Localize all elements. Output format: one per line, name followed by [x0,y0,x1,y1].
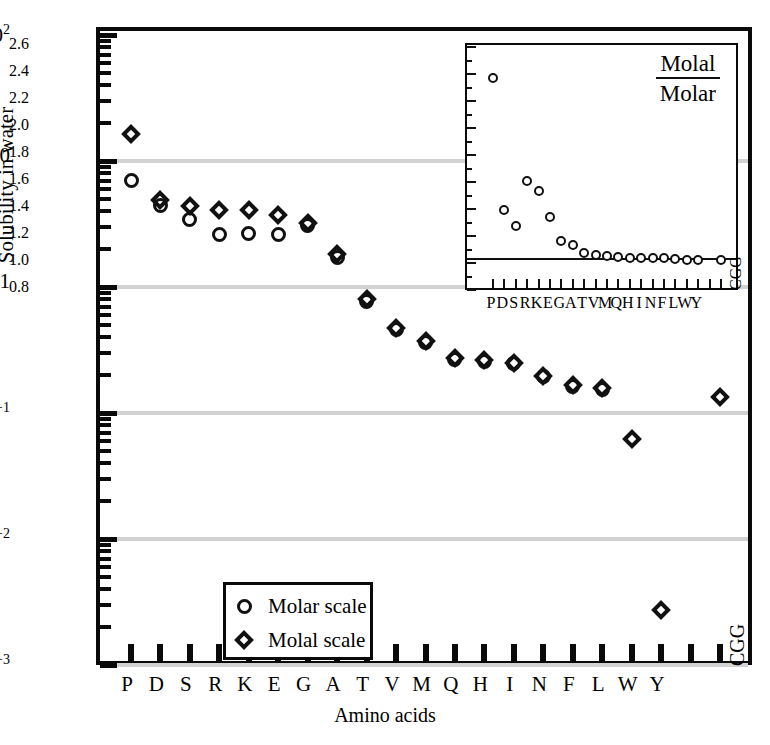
y-tick-minor [100,171,111,175]
x-tick-major [511,644,517,661]
circle-marker-icon [236,598,252,614]
data-point-diamond [592,378,612,398]
data-point-diamond [445,348,465,368]
inset-x-tick [606,279,608,288]
ratio-numerator: Molal [656,51,720,79]
inset-data-point [534,186,544,196]
x-tick-major [393,644,399,661]
y-tick-minor [100,417,111,421]
inset-y-tick-label: 1.4 [9,198,29,214]
x-tick-major [599,644,605,661]
y-tick-minor [100,305,111,309]
x-tick-label: Y [640,672,674,697]
data-point-diamond [533,366,553,386]
inset-x-tick [560,279,562,288]
data-point-circle [124,173,139,188]
y-tick-minor [100,543,111,547]
y-tick-minor [100,565,111,569]
y-tick-major [100,537,117,542]
y-tick-major [100,159,117,164]
inset-x-tick [503,279,505,288]
gridline [100,411,748,415]
inset-data-point [568,240,578,250]
y-tick-minor [100,297,111,301]
inset-x-tick [629,279,631,288]
inset-y-tick-label: 1.6 [9,171,29,187]
x-tick-label-cgg: CGG [726,624,749,666]
y-tick-minor [100,313,111,317]
y-tick-minor [100,449,111,453]
y-tick-minor [100,121,111,125]
data-point-diamond [504,353,524,373]
inset-x-tick [549,279,551,288]
y-tick-major [100,285,117,290]
x-tick-major [216,644,222,661]
x-tick-major [717,644,723,661]
inset-data-point [716,255,726,265]
inset-y-tick [467,235,476,237]
y-tick-minor [100,549,111,553]
y-tick-minor [100,335,111,339]
inset-x-tick-label-cgg: CGG [727,256,745,290]
inset-x-tick [709,279,711,288]
x-tick-major [481,644,487,661]
inset-y-tick [467,154,476,156]
inset-y-tick-label: 1.0 [9,252,29,268]
x-tick-major [452,644,458,661]
y-tick-minor [100,603,111,607]
inset-y-tick-label: 1.2 [9,225,29,241]
inset-data-point [579,248,589,258]
inset-x-tick [640,279,642,288]
y-tick-minor [100,625,111,629]
y-tick-label: 10−3 [0,649,10,676]
inset-y-tick-minor [467,168,472,170]
y-tick-minor [100,431,111,435]
inset-y-tick-minor [467,87,472,89]
legend-label-molar: Molar scale [268,594,367,619]
inset-y-tick [467,46,476,48]
legend-item-molar: Molar scale [236,589,367,623]
data-point-diamond [239,201,259,221]
inset-data-point [488,73,498,83]
y-tick-minor [100,575,111,579]
inset-y-tick [467,289,476,291]
data-point-diamond [268,205,288,225]
inset-x-tick [538,279,540,288]
y-tick-minor [100,39,111,43]
inset-x-tick [674,279,676,288]
inset-x-tick [686,279,688,288]
data-point-diamond [651,600,671,620]
inset-plot-frame: Molal Molar [465,43,738,290]
x-tick-major [688,644,694,661]
inset-y-tick [467,208,476,210]
inset-y-tick [467,127,476,129]
inset-x-tick [515,279,517,288]
x-tick-major [423,644,429,661]
inset-y-tick-minor [467,60,472,62]
y-tick-minor [100,61,111,65]
inset-y-tick [467,262,476,264]
inset-x-tick [720,279,722,288]
x-tick-major [157,644,163,661]
x-axis-title: Amino acids [0,704,770,727]
x-tick-major [128,644,134,661]
inset-y-tick-label: 2.6 [9,36,29,52]
y-tick-minor [100,247,111,251]
y-tick-minor [100,423,111,427]
data-point-diamond [710,387,730,407]
y-tick-minor [100,165,111,169]
data-point-diamond [416,331,436,351]
inset-x-tick [595,279,597,288]
y-tick-minor [100,179,111,183]
y-tick-minor [100,83,111,87]
y-tick-major [100,663,117,668]
x-tick-major [658,644,664,661]
inset-data-point [522,176,532,186]
inset-y-tick-label: 2.0 [9,117,29,133]
inset-data-point [625,253,635,263]
x-tick-major [187,644,193,661]
inset-y-tick [467,100,476,102]
y-tick-minor [100,351,111,355]
inset-data-point [511,221,521,231]
inset-y-tick-label: 0.8 [9,279,29,295]
